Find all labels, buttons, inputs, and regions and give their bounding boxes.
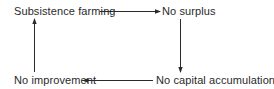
node-no-improvement: No improvement bbox=[14, 74, 96, 86]
node-no-capital-accumulation: No capital accumulation bbox=[156, 74, 274, 86]
node-no-surplus: No surplus bbox=[162, 5, 216, 17]
node-subsistence-farming: Subsistence farming bbox=[14, 5, 116, 17]
